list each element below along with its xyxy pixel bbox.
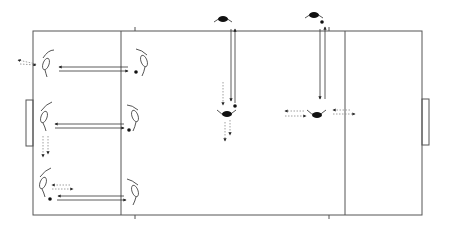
player-light-icon [127,179,140,205]
goal-right [422,99,429,145]
ball-icon [48,197,52,201]
ball-icon [320,20,324,24]
ball-icon [127,128,131,132]
player-dark-icon [305,12,323,18]
player-dark-icon [307,110,326,118]
goal-left [26,100,33,146]
player-light-icon [136,49,149,76]
player-light-icon [41,50,54,77]
player-dark-icon [214,16,232,22]
player-light-icon [39,102,52,131]
player-light-icon [127,105,140,131]
player-light-icon [38,168,51,197]
run-arrow [20,64,36,65]
ball-icon [233,104,237,108]
field-boundary [33,31,422,215]
player-dark-icon [217,110,236,117]
drill-diagram [0,0,459,227]
ball-icon [134,70,138,74]
